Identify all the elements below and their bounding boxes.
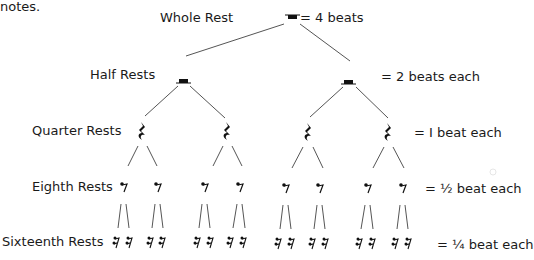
sixteenth-rest-icon xyxy=(194,237,201,249)
eighth-rest-icon xyxy=(399,183,406,193)
half-to-quarter-lines xyxy=(145,86,388,118)
sixteenth-rest-icon xyxy=(369,238,376,250)
quarter-rest-icon xyxy=(139,122,145,140)
sixteenth-rest-icon xyxy=(356,238,363,250)
sixteenth-rest-icon xyxy=(227,237,234,249)
sixteenth-rest-icon xyxy=(392,238,399,250)
eighth-rest-icon xyxy=(201,182,208,192)
eighth-rest-icon xyxy=(364,183,371,193)
sixteenth-rest-icon xyxy=(113,237,120,249)
quarter-to-eighth-lines xyxy=(128,146,404,168)
eighth-rest-icon xyxy=(154,182,161,192)
sixteenth-rest-icon xyxy=(147,237,154,249)
sixteenth-rest-icon xyxy=(405,238,412,250)
sixteenth-rest-icon xyxy=(322,238,329,250)
sixteenth-rest-icon xyxy=(126,237,133,249)
quarter-rest-icon xyxy=(385,123,391,141)
whole-rest-icon xyxy=(285,15,300,19)
half-rest-icon xyxy=(176,79,191,83)
eighth-rest-icon xyxy=(236,182,243,192)
artifact-mark xyxy=(490,169,496,175)
half-rest-icon xyxy=(341,80,356,84)
sixteenth-rest-icon xyxy=(207,237,214,249)
sixteenth-rest-icon xyxy=(309,238,316,250)
sixteenth-rest-icon xyxy=(275,238,282,250)
sixteenth-rest-icon xyxy=(240,237,247,249)
eighth-rest-icon xyxy=(282,183,289,193)
sixteenth-rest-icon xyxy=(288,238,295,250)
quarter-rest-icon xyxy=(305,123,311,141)
whole-to-half-lines xyxy=(186,24,350,61)
sixteenth-rest-icon xyxy=(159,237,166,249)
eighth-to-sixteenth-lines xyxy=(118,204,408,229)
sixteenth-rests xyxy=(113,237,412,250)
eighth-rest-icon xyxy=(120,182,127,192)
eighth-rest-icon xyxy=(316,183,323,193)
quarter-rest-icon xyxy=(224,122,230,140)
